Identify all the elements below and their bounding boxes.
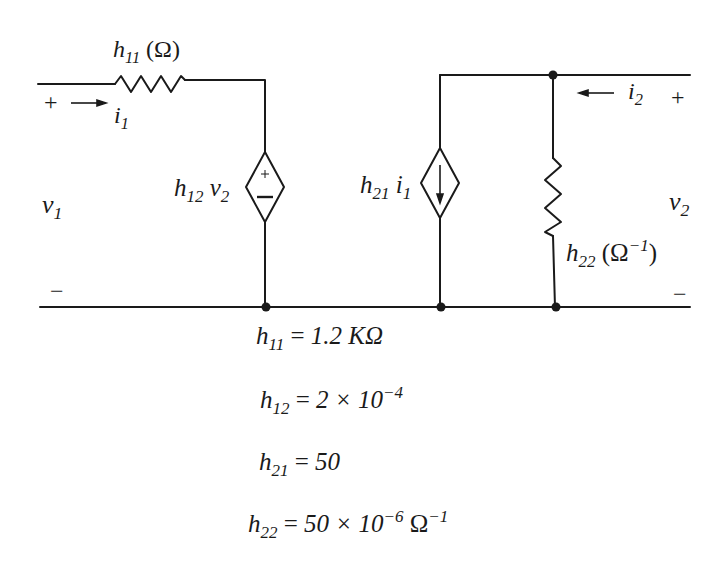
eq-h12-base: h — [260, 386, 273, 413]
h11-resistor — [115, 76, 185, 92]
node-bottom-3 — [552, 303, 561, 312]
input-plus: + — [44, 89, 58, 116]
h11-sub: 11 — [125, 48, 140, 67]
output-plus: + — [671, 84, 685, 111]
equation-h11: h11 = 1.2 KΩ — [256, 322, 383, 355]
h22-resistor — [545, 158, 561, 236]
h12v2-source — [246, 152, 284, 222]
eq-h11-sub: 11 — [269, 335, 285, 354]
i2-sub: 2 — [635, 90, 643, 109]
eq-h22-unit-exp: −1 — [428, 507, 448, 526]
eq-h22-sub: 22 — [261, 523, 278, 542]
eq-h12-equals: = — [296, 386, 310, 413]
input-minus: − — [50, 278, 64, 305]
eq-h12-value: 2 × 10 — [316, 386, 383, 413]
i1-sub: 1 — [121, 114, 129, 133]
v1-sub: 1 — [54, 203, 63, 223]
h11-label: h11 (Ω) — [113, 36, 180, 68]
eq-h22-value: 50 × 10 — [304, 510, 383, 537]
equation-h21: h21 = 50 — [259, 448, 340, 481]
v1-base: v — [42, 190, 54, 219]
equation-h12: h12 = 2 × 10−4 — [260, 383, 403, 419]
h21-base: h — [360, 171, 373, 198]
i1-var: i — [396, 171, 403, 198]
output-minus: − — [673, 281, 687, 308]
h22-base: h — [566, 239, 579, 266]
h22-unit-open: (Ω — [602, 239, 629, 266]
h22-sub: 22 — [579, 252, 596, 271]
h22-unit-close: ) — [649, 239, 657, 266]
eq-h11-base: h — [256, 322, 269, 349]
i1-var-sub: 1 — [403, 184, 412, 203]
eq-h21-sub: 21 — [272, 461, 289, 480]
eq-h21-equals: = — [295, 448, 309, 475]
eq-h12-exp: −4 — [383, 383, 403, 402]
node-top-right — [549, 71, 558, 80]
v2-base: v — [669, 187, 681, 216]
h12v2-label: h12 v2 — [174, 174, 229, 207]
v2-var: v — [210, 174, 221, 201]
equation-h22: h22 = 50 × 10−6 Ω−1 — [248, 507, 448, 543]
eq-h22-exp: −6 — [383, 507, 403, 526]
h12-base: h — [174, 174, 187, 201]
v2-var-sub: 2 — [221, 187, 230, 206]
h22-unit-exp: −1 — [629, 236, 649, 255]
v2-label: v2 — [669, 187, 689, 221]
eq-h11-value: 1.2 KΩ — [311, 322, 383, 349]
h21-sub: 21 — [373, 184, 390, 203]
eq-h22-equals: = — [284, 510, 298, 537]
eq-h21-base: h — [259, 448, 272, 475]
node-bottom-1 — [262, 303, 271, 312]
i1-base: i — [114, 102, 121, 128]
h11-unit: (Ω) — [146, 36, 180, 62]
eq-h22-unit: Ω — [410, 510, 429, 537]
i2-base: i — [628, 78, 635, 104]
h21i1-label: h21 i1 — [360, 171, 411, 204]
v1-label: v1 — [42, 190, 62, 224]
h22-label: h22 (Ω−1) — [566, 236, 657, 272]
h22-bottom-wire — [553, 236, 555, 307]
eq-h21-value: 50 — [315, 448, 340, 475]
i2-label: i2 — [628, 78, 643, 110]
v2-sub: 2 — [681, 200, 690, 220]
eq-h11-equals: = — [291, 322, 305, 349]
src-plus-mark — [261, 170, 269, 178]
circuit-schematic — [0, 0, 728, 569]
top-wire-left — [185, 80, 265, 152]
eq-h22-base: h — [248, 510, 261, 537]
node-bottom-2 — [437, 303, 446, 312]
h11-base: h — [113, 36, 125, 62]
h12-sub: 12 — [187, 187, 204, 206]
i1-label: i1 — [114, 102, 129, 134]
eq-h12-sub: 12 — [273, 399, 290, 418]
